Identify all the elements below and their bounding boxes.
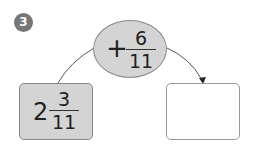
- fraction-denominator: 11: [129, 51, 153, 71]
- plus-operator: +: [106, 33, 128, 63]
- operation-ellipse: + 6 11: [93, 20, 167, 78]
- start-value-box: 2 3 11: [19, 83, 93, 140]
- fraction-numerator: 3: [58, 89, 70, 109]
- mixed-number-whole: 2: [33, 98, 48, 126]
- fraction-denominator: 11: [52, 112, 76, 132]
- start-fraction: 3 11: [49, 89, 79, 132]
- operation-fraction: 6 11: [126, 28, 156, 71]
- fraction-numerator: 6: [135, 28, 147, 48]
- answer-box[interactable]: [166, 83, 240, 140]
